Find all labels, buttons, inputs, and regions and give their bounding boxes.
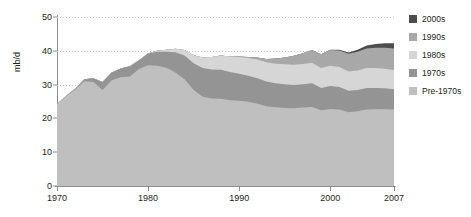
- legend-item[interactable]: 1980s: [409, 50, 461, 60]
- stacked-area-chart: mb/d 01020304050 19701980199020002007 20…: [0, 0, 471, 217]
- x-axis-tick-label: 2007: [384, 193, 404, 203]
- legend-item[interactable]: Pre-1970s: [409, 86, 461, 96]
- y-axis-tick-label: 0: [47, 181, 52, 191]
- y-axis-tick-label: 50: [42, 12, 52, 22]
- x-axis-tick-label: 1990: [229, 193, 249, 203]
- legend-item-label: 1980s: [422, 50, 445, 60]
- y-axis-tick-label: 20: [42, 113, 52, 123]
- y-axis-tick-label: 40: [42, 46, 52, 56]
- y-axis-tick-mark: [53, 50, 57, 51]
- legend-item-label: Pre-1970s: [422, 86, 461, 96]
- x-axis-tick-mark: [57, 186, 58, 191]
- y-axis-tick-mark: [53, 84, 57, 85]
- legend-swatch-icon: [409, 87, 417, 95]
- area-series-group: [57, 17, 394, 186]
- legend-item-label: 1970s: [422, 68, 445, 78]
- x-axis-tick-label: 1970: [47, 193, 67, 203]
- legend-item[interactable]: 2000s: [409, 14, 461, 24]
- x-axis-tick-mark: [239, 186, 240, 191]
- legend-swatch-icon: [409, 15, 417, 23]
- x-axis-tick-mark: [394, 186, 395, 191]
- y-axis-tick-mark: [53, 118, 57, 119]
- x-axis-tick-mark: [148, 186, 149, 191]
- legend: 2000s1990s1980s1970sPre-1970s: [409, 14, 461, 96]
- legend-item[interactable]: 1990s: [409, 32, 461, 42]
- legend-swatch-icon: [409, 69, 417, 77]
- x-axis-tick-mark: [330, 186, 331, 191]
- plot-area: 01020304050 19701980199020002007: [57, 17, 394, 186]
- y-axis-tick-mark: [53, 17, 57, 18]
- legend-item-label: 1990s: [422, 32, 445, 42]
- x-axis-tick-label: 1980: [138, 193, 158, 203]
- y-axis-tick-mark: [53, 152, 57, 153]
- x-axis-line: [55, 186, 396, 187]
- y-axis-title: mb/d: [2, 6, 12, 26]
- legend-item-label: 2000s: [422, 14, 445, 24]
- x-axis-tick-label: 2000: [320, 193, 340, 203]
- legend-item[interactable]: 1970s: [409, 68, 461, 78]
- y-axis-tick-label: 10: [42, 147, 52, 157]
- y-axis-tick-label: 30: [42, 80, 52, 90]
- legend-swatch-icon: [409, 33, 417, 41]
- legend-swatch-icon: [409, 51, 417, 59]
